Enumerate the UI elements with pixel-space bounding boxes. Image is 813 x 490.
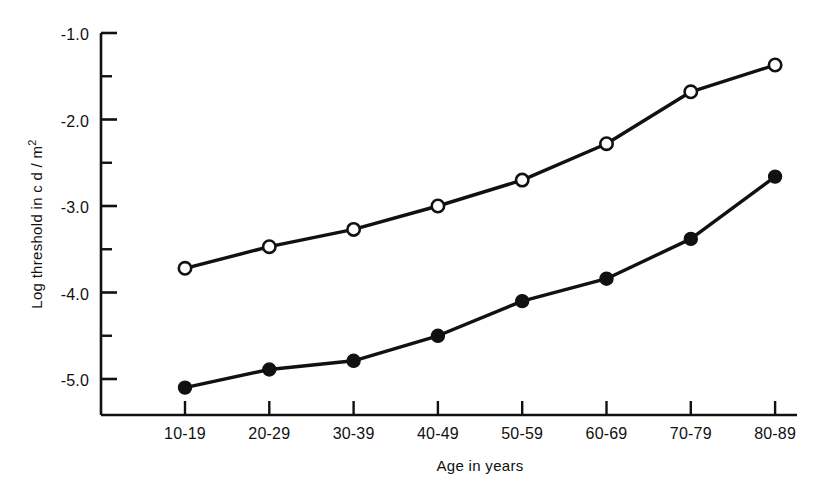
data-point-marker: 70-79: -3.38 bbox=[684, 232, 697, 245]
x-axis-tick-label: 10-19 bbox=[164, 425, 206, 442]
x-axis-ticks: 10-1920-2930-3940-4950-5960-6970-7980-89 bbox=[164, 401, 796, 442]
chart-figure: -1.0-2.0-3.0-4.0-5.0 10-1920-2930-3940-4… bbox=[0, 0, 813, 490]
data-point-marker: 60-69: -2.28 bbox=[600, 138, 612, 150]
y-axis-label: Log threshold in c d / m2 bbox=[26, 139, 45, 309]
data-point-marker: 30-39: -3.27 bbox=[347, 223, 359, 235]
x-axis-tick-label: 20-29 bbox=[248, 425, 290, 442]
data-point-marker: 20-29: -3.47 bbox=[263, 241, 275, 253]
x-axis-tick-label: 80-89 bbox=[754, 425, 796, 442]
data-point-marker: 60-69: -3.84 bbox=[600, 272, 613, 285]
data-point-marker: 30-39: -4.79 bbox=[347, 354, 360, 367]
x-axis-tick-label: 50-59 bbox=[501, 425, 543, 442]
y-axis-label-text: Log threshold in c d / m2 bbox=[26, 139, 45, 309]
series-line bbox=[185, 177, 775, 388]
y-axis-tick-label: -2.0 bbox=[61, 113, 89, 130]
data-point-marker: 40-49: -4.5 bbox=[431, 329, 444, 342]
data-point-marker: 50-59: -2.7 bbox=[516, 174, 528, 186]
x-axis-tick-label: 60-69 bbox=[586, 425, 628, 442]
x-axis-label: Age in years bbox=[437, 457, 524, 474]
line-chart: -1.0-2.0-3.0-4.0-5.0 10-1920-2930-3940-4… bbox=[0, 0, 813, 490]
data-point-marker: 80-89: -1.37 bbox=[769, 59, 781, 71]
data-point-marker: 50-59: -4.1 bbox=[516, 295, 529, 308]
x-axis-tick-label: 30-39 bbox=[333, 425, 375, 442]
series-filled-circle-series: 10-19: -5.120-29: -4.8930-39: -4.7940-49… bbox=[178, 170, 781, 394]
y-axis-tick-label: -3.0 bbox=[61, 199, 89, 216]
data-point-marker: 40-49: -3 bbox=[432, 200, 444, 212]
y-axis-tick-label: -4.0 bbox=[61, 286, 89, 303]
y-axis-ticks: -1.0-2.0-3.0-4.0-5.0 bbox=[61, 26, 117, 389]
data-point-marker: 10-19: -3.72 bbox=[179, 262, 191, 274]
y-axis-tick-label: -1.0 bbox=[61, 26, 89, 43]
data-point-marker: 20-29: -4.89 bbox=[263, 363, 276, 376]
x-axis-tick-label: 70-79 bbox=[670, 425, 712, 442]
data-series: 10-19: -3.7220-29: -3.4730-39: -3.2740-4… bbox=[178, 59, 781, 394]
data-point-marker: 70-79: -1.68 bbox=[685, 86, 697, 98]
data-point-marker: 80-89: -2.66 bbox=[769, 170, 782, 183]
y-axis-tick-label: -5.0 bbox=[61, 372, 89, 389]
data-point-marker: 10-19: -5.1 bbox=[178, 381, 191, 394]
x-axis-tick-label: 40-49 bbox=[417, 425, 459, 442]
